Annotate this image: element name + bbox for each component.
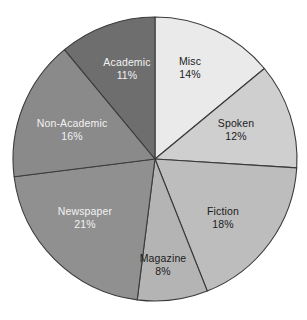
pie-chart: Misc14%Spoken12%Fiction18%Magazine8%News… (0, 0, 307, 320)
pie-chart-canvas (0, 0, 307, 320)
pie-slice-newspaper (14, 159, 155, 300)
